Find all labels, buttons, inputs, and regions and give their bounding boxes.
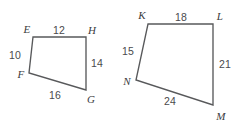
vertex-label-m: M bbox=[216, 111, 225, 122]
side-length-lm: 21 bbox=[219, 59, 231, 70]
quadrilateral-klmn-outline bbox=[136, 24, 213, 105]
side-length-mn: 24 bbox=[164, 96, 176, 107]
geometry-diagram-canvas: E H G F 12 14 16 10 K L M N 18 21 24 15 bbox=[0, 0, 245, 126]
vertex-label-h: H bbox=[88, 25, 96, 36]
geometry-svg-layer bbox=[0, 0, 245, 126]
side-length-hg: 14 bbox=[91, 58, 103, 69]
side-length-gf: 16 bbox=[49, 90, 61, 101]
vertex-label-e: E bbox=[24, 24, 31, 35]
vertex-label-k: K bbox=[138, 10, 146, 21]
quadrilateral-efgh-outline bbox=[29, 37, 86, 90]
vertex-label-l: L bbox=[217, 11, 223, 22]
side-length-eh: 12 bbox=[53, 25, 65, 36]
side-length-kl: 18 bbox=[175, 12, 187, 23]
vertex-label-f: F bbox=[18, 69, 25, 80]
side-length-fe: 10 bbox=[9, 50, 21, 61]
vertex-label-n: N bbox=[123, 76, 131, 87]
vertex-label-g: G bbox=[87, 94, 95, 105]
side-length-nk: 15 bbox=[122, 46, 134, 57]
